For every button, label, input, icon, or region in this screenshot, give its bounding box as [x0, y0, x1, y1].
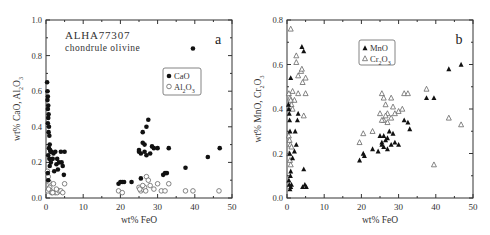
- x-tick-label: 30: [153, 202, 163, 212]
- series-cao: [45, 46, 222, 186]
- svg-text:MnO: MnO: [370, 43, 388, 53]
- y-axis-label: wt% CaO, Al2O3: [12, 77, 24, 141]
- y-tick-label: 1.0: [31, 15, 42, 25]
- series-mno: [286, 44, 464, 191]
- x-tick-label: 50: [228, 202, 238, 212]
- y-tick-label: 0.4: [272, 104, 283, 114]
- y-axis-label: wt% MnO, Cr2O3: [253, 76, 265, 143]
- legend: MnOCr2O3: [359, 40, 395, 66]
- y-tick-label: 0.8: [272, 15, 283, 25]
- x-tick-label: 20: [116, 202, 126, 212]
- y-tick-label: 0.2: [31, 157, 42, 167]
- chart-panel-a: 010203040500.00.20.40.60.81.0wt% FeOwt% …: [12, 15, 237, 225]
- x-tick-label: 10: [320, 202, 330, 212]
- y-tick-label: 0.0: [31, 193, 42, 203]
- y-tick-label: 0.2: [272, 149, 283, 159]
- y-tick-label: 0.6: [31, 86, 42, 96]
- x-tick-label: 40: [190, 202, 200, 212]
- chart-panel-b: 010203040500.00.20.40.60.8wt% FeOwt% MnO…: [253, 15, 478, 225]
- x-tick-label: 0: [44, 202, 49, 212]
- panel-label: a: [215, 32, 222, 47]
- x-axis-label: wt% FeO: [362, 215, 398, 225]
- y-tick-label: 0.8: [31, 51, 42, 61]
- x-tick-label: 20: [357, 202, 367, 212]
- x-tick-label: 50: [469, 202, 479, 212]
- y-tick-label: 0.6: [272, 60, 283, 70]
- y-tick-label: 0.4: [31, 122, 42, 132]
- chart-title: ALHA77307: [65, 29, 130, 41]
- legend: CaOAl2O3: [163, 68, 201, 95]
- svg-text:wt% MnO, Cr2O3: wt% MnO, Cr2O3: [253, 76, 265, 143]
- panel-label: b: [456, 32, 463, 47]
- x-axis-label: wt% FeO: [121, 215, 157, 225]
- chart-subtitle: chondrule olivine: [65, 43, 140, 53]
- svg-text:wt% CaO, Al2O3: wt% CaO, Al2O3: [12, 77, 24, 141]
- x-tick-label: 30: [394, 202, 404, 212]
- figure: 010203040500.00.20.40.60.81.0wt% FeOwt% …: [0, 0, 490, 235]
- x-tick-label: 0: [285, 202, 290, 212]
- y-tick-label: 0.0: [272, 193, 283, 203]
- svg-text:CaO: CaO: [174, 71, 190, 81]
- x-tick-label: 10: [79, 202, 89, 212]
- x-tick-label: 40: [431, 202, 441, 212]
